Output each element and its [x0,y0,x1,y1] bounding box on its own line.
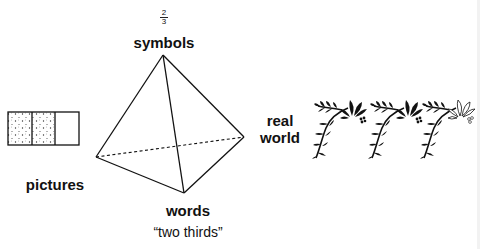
flower-filled-icon [396,100,423,123]
shaded-part-2 [32,112,54,145]
edge-left-bottom [96,157,184,193]
edge-apex-bottom [163,55,184,193]
tetrahedron [96,55,244,193]
hidden-edge-dashed [96,137,244,157]
flower-filled-icon [340,100,367,123]
edge-right-bottom [184,137,244,193]
edge-apex-right [163,55,244,137]
diagram-canvas [0,0,480,249]
edge-apex-left [96,55,163,157]
sprig-1 [312,100,367,159]
shaded-part-1 [8,112,32,145]
fraction-bar-model [8,112,79,145]
sprig-2 [368,100,423,159]
sprig-3 [420,100,475,159]
flower-outline-icon [448,100,475,123]
